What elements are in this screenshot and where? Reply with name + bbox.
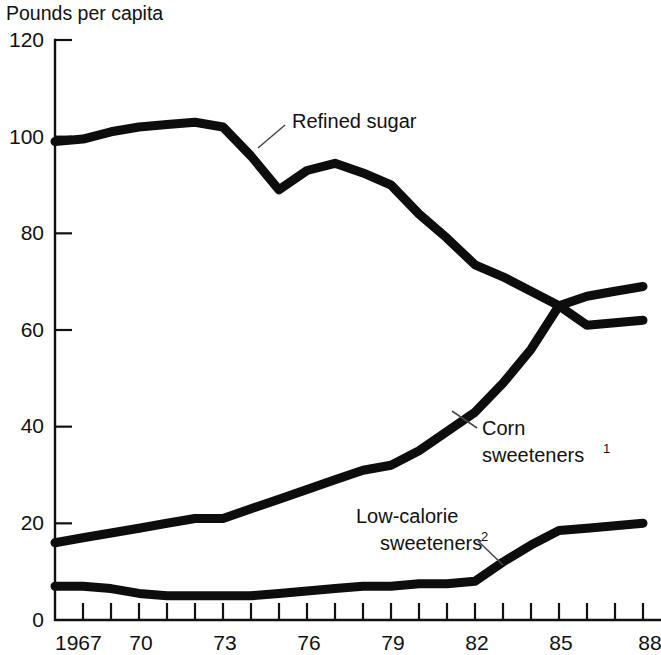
series-label-refined-sugar: Refined sugar <box>292 110 417 132</box>
chart-axis-title: Pounds per capita <box>6 2 163 24</box>
y-tick-label-20: 20 <box>21 511 44 534</box>
x-tick-label-85: 85 <box>549 631 572 654</box>
y-tick-label-120: 120 <box>9 28 44 51</box>
line-chart: Pounds per capita 120 100 80 60 40 20 0 … <box>0 0 661 655</box>
y-tick-label-100: 100 <box>9 125 44 148</box>
series-line-corn-sweeteners <box>55 287 643 543</box>
y-tick-label-40: 40 <box>21 414 44 437</box>
series-label-lowcal-line1: Low-calorie <box>356 505 458 527</box>
series-label-corn-superscript: 1 <box>603 441 610 456</box>
x-tick-label-79: 79 <box>381 631 404 654</box>
x-tick-label-1967: 1967 <box>55 631 102 654</box>
x-tick-label-70: 70 <box>129 631 152 654</box>
series-line-low-calorie-sweeteners <box>55 523 643 596</box>
y-axis-ticks <box>55 40 72 523</box>
series-label-lowcal-superscript: 2 <box>481 529 488 544</box>
series-label-corn-line1: Corn <box>482 417 525 439</box>
series-label-lowcal-line2: sweeteners <box>380 532 482 554</box>
y-tick-label-80: 80 <box>21 221 44 244</box>
chart-container: Pounds per capita 120 100 80 60 40 20 0 … <box>0 0 661 655</box>
x-tick-label-76: 76 <box>297 631 320 654</box>
x-tick-label-73: 73 <box>213 631 236 654</box>
series-line-refined-sugar <box>55 122 643 325</box>
x-tick-label-88: 88 <box>638 631 661 654</box>
y-tick-label-60: 60 <box>21 318 44 341</box>
leader-line-refined-sugar <box>258 125 285 148</box>
x-tick-label-82: 82 <box>465 631 488 654</box>
y-tick-label-0: 0 <box>32 608 44 631</box>
series-label-corn-line2: sweeteners <box>482 444 584 466</box>
x-axis-ticks <box>83 603 643 620</box>
